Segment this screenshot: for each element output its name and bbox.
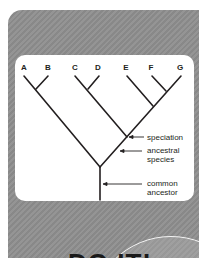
common-text-line1: common: [147, 179, 178, 188]
ancestral-species-label: ancestral species: [147, 146, 179, 164]
branch-c: [75, 76, 127, 137]
branch-a: [24, 76, 100, 167]
leaf-label-c: C: [72, 63, 78, 72]
leaf-label-d: D: [95, 63, 101, 72]
speciation-arrowhead: [129, 136, 133, 139]
ancestral-text-line2: species: [147, 155, 179, 164]
branch-f: [152, 76, 166, 91]
ancestral-text-line1: ancestral: [147, 146, 179, 155]
do-it-badge-text: DO IT!: [68, 248, 152, 258]
common-ancestor-label: common ancestor: [147, 179, 178, 197]
speciation-text: speciation: [147, 133, 183, 142]
common-text-line2: ancestor: [147, 188, 178, 197]
leaf-label-g: G: [177, 63, 183, 72]
leaf-label-e: E: [123, 63, 128, 72]
leaf-label-b: B: [45, 63, 51, 72]
branch-b: [36, 76, 48, 89]
leaf-label-f: F: [149, 63, 154, 72]
branch-e: [127, 76, 153, 106]
leaf-label-a: A: [21, 63, 27, 72]
cladogram-tree: [0, 0, 199, 258]
speciation-label: speciation: [147, 133, 183, 142]
ancestral-arrowhead: [120, 150, 124, 153]
common-arrowhead: [103, 183, 107, 186]
branch-d: [88, 76, 99, 89]
